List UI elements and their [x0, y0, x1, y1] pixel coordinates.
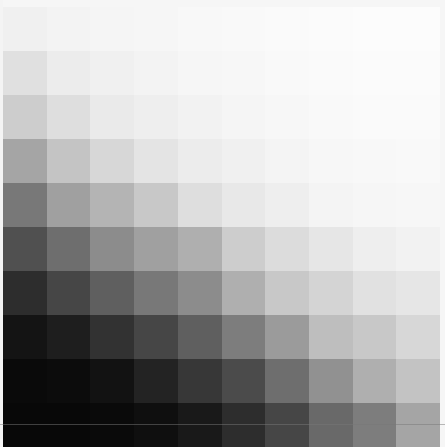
gray-patch	[178, 227, 222, 271]
gray-patch	[178, 183, 222, 227]
gray-patch	[47, 271, 91, 315]
gray-patch	[222, 51, 266, 95]
gray-patch	[222, 7, 266, 51]
gray-patch	[134, 271, 178, 315]
gray-patch	[353, 51, 397, 95]
gray-patch	[396, 271, 440, 315]
gray-patch	[265, 403, 309, 447]
gray-patch	[222, 271, 266, 315]
gray-patch	[47, 51, 91, 95]
scan-line	[0, 424, 445, 425]
gray-patch	[90, 315, 134, 359]
gray-patch	[396, 7, 440, 51]
gray-patch	[396, 359, 440, 403]
gray-patch	[178, 7, 222, 51]
gray-patch	[265, 183, 309, 227]
gray-patch	[178, 95, 222, 139]
gray-gradient-grid	[3, 7, 440, 447]
gray-patch	[3, 227, 47, 271]
gray-patch	[353, 271, 397, 315]
gray-patch	[47, 227, 91, 271]
gray-patch	[353, 359, 397, 403]
gray-patch	[47, 359, 91, 403]
gray-patch	[222, 227, 266, 271]
gray-patch	[265, 95, 309, 139]
gray-patch	[178, 315, 222, 359]
gray-patch	[47, 403, 91, 447]
gray-patch	[134, 139, 178, 183]
gray-patch	[47, 95, 91, 139]
gray-patch	[134, 227, 178, 271]
gray-patch	[309, 139, 353, 183]
gray-patch	[353, 183, 397, 227]
gray-patch	[353, 7, 397, 51]
gray-patch	[3, 95, 47, 139]
gray-patch	[90, 139, 134, 183]
gray-patch	[134, 359, 178, 403]
gray-patch	[222, 95, 266, 139]
gray-patch	[265, 7, 309, 51]
gray-patch	[396, 403, 440, 447]
gray-patch	[178, 139, 222, 183]
gray-patch	[353, 315, 397, 359]
gray-patch	[3, 139, 47, 183]
gray-patch	[134, 183, 178, 227]
gray-patch	[47, 315, 91, 359]
gray-patch	[309, 403, 353, 447]
gray-patch	[396, 227, 440, 271]
gray-patch	[90, 359, 134, 403]
gray-patch	[265, 139, 309, 183]
gray-patch	[396, 183, 440, 227]
gray-patch	[134, 51, 178, 95]
gray-patch	[396, 315, 440, 359]
gray-patch	[3, 51, 47, 95]
gray-patch	[222, 359, 266, 403]
gray-patch	[265, 315, 309, 359]
gray-patch	[309, 95, 353, 139]
gray-patch	[134, 95, 178, 139]
gray-patch	[3, 315, 47, 359]
gray-patch	[309, 51, 353, 95]
gray-patch	[90, 183, 134, 227]
gray-patch	[90, 227, 134, 271]
gray-patch	[90, 403, 134, 447]
gray-patch	[353, 403, 397, 447]
gray-patch	[222, 183, 266, 227]
gray-patch	[134, 315, 178, 359]
gray-patch	[353, 227, 397, 271]
gray-patch	[134, 7, 178, 51]
gray-patch	[3, 271, 47, 315]
gray-patch	[265, 51, 309, 95]
gray-patch	[265, 227, 309, 271]
gray-patch	[309, 271, 353, 315]
gray-patch	[3, 183, 47, 227]
gray-patch	[222, 403, 266, 447]
gray-patch	[222, 139, 266, 183]
gray-patch	[178, 403, 222, 447]
gray-patch	[396, 139, 440, 183]
gray-patch	[353, 95, 397, 139]
gray-patch	[3, 359, 47, 403]
gray-patch	[309, 183, 353, 227]
gray-patch	[3, 403, 47, 447]
gray-patch	[309, 227, 353, 271]
gray-patch	[47, 7, 91, 51]
gray-patch	[222, 315, 266, 359]
gray-patch	[353, 139, 397, 183]
gray-patch	[265, 359, 309, 403]
gray-patch	[47, 183, 91, 227]
gray-patch	[309, 359, 353, 403]
gray-patch	[396, 51, 440, 95]
gray-patch	[90, 51, 134, 95]
gray-patch	[178, 359, 222, 403]
gray-patch	[265, 271, 309, 315]
gray-patch	[90, 271, 134, 315]
gray-patch	[90, 95, 134, 139]
gray-patch	[396, 95, 440, 139]
gray-patch	[309, 7, 353, 51]
gray-patch	[47, 139, 91, 183]
gray-patch	[178, 271, 222, 315]
gray-patch	[309, 315, 353, 359]
gray-patch	[3, 7, 47, 51]
gray-patch	[90, 7, 134, 51]
